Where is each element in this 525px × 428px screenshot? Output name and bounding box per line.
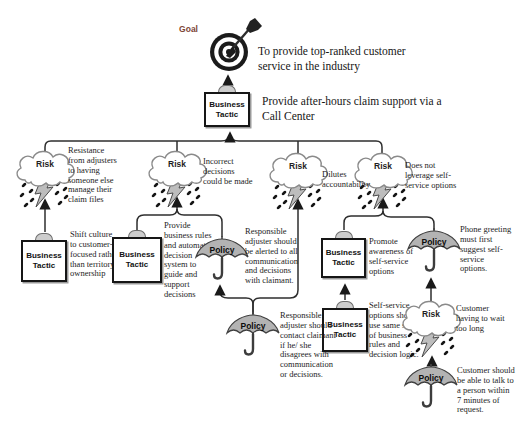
risk-1-description: Resistance from adjusters to having some…	[68, 146, 120, 205]
clipboard-clip-icon	[336, 301, 354, 308]
risk-node-3: Risk	[266, 149, 330, 213]
clipboard-icon: Business Tactic	[204, 92, 250, 127]
umbrella-icon	[406, 228, 462, 274]
target-icon	[205, 18, 265, 74]
risk-5-label: Risk	[399, 309, 463, 319]
risk-4-description: Does not leverage self-service options	[405, 161, 461, 191]
clipboard-clip-icon	[35, 233, 53, 240]
goal-description: To provide top-ranked customer service i…	[258, 44, 438, 73]
root-tactic-node: Business Tactic	[204, 85, 250, 127]
risk-node-2: Risk	[145, 147, 209, 211]
storm-cloud-icon	[145, 147, 209, 211]
storm-cloud-icon	[266, 149, 330, 213]
policy-4-description: Customer should be able to talk to a per…	[457, 366, 515, 415]
risk-3-description: Dilutes accountability	[322, 170, 378, 190]
policy-node-2: Policy	[225, 312, 281, 358]
risk-2-label: Risk	[145, 159, 209, 169]
umbrella-icon	[403, 364, 459, 410]
clipboard-clip-icon	[335, 231, 353, 238]
tactic-node-1: Business Tactic	[21, 233, 67, 282]
tactic-1-label: Business Tactic	[23, 251, 65, 270]
root-tactic-description: Provide after-hours claim support via a …	[262, 94, 447, 123]
policy-node-1: Policy	[194, 236, 250, 282]
storm-cloud-icon	[399, 297, 463, 361]
strategy-risk-diagram: Goal To provide top-ranked customer serv…	[0, 0, 525, 428]
risk-5-description: Customer having to wait too long	[456, 304, 514, 334]
clipboard-clip-icon	[218, 85, 236, 92]
clipboard-icon: Business Tactic	[21, 240, 67, 282]
bracket-risk4-left	[344, 211, 383, 230]
clipboard-clip-icon	[128, 230, 146, 237]
policy-3-label: Policy	[406, 237, 462, 247]
goal-label: Goal	[166, 24, 198, 34]
policy-node-4: Policy	[403, 364, 459, 410]
risk-3-label: Risk	[266, 161, 330, 171]
policy-2-label: Policy	[225, 321, 281, 331]
policy-node-3: Policy	[406, 228, 462, 274]
root-tactic-label: Business Tactic	[206, 100, 248, 119]
policy-1-description: Responsible adjuster should be alerted t…	[245, 227, 303, 286]
arrow-policy2-to-policy1	[220, 286, 253, 314]
goal-node	[205, 18, 265, 74]
tactic-node-2: Business Tactic	[112, 230, 162, 283]
policy-2-description: Responsible adjuster should contact clai…	[280, 311, 342, 380]
umbrella-icon	[194, 236, 250, 282]
tactic-2-label: Business Tactic	[114, 250, 160, 269]
umbrella-icon	[225, 312, 281, 358]
clipboard-icon: Business Tactic	[321, 238, 366, 278]
tactic-node-3: Business Tactic	[321, 231, 366, 278]
clipboard-icon: Business Tactic	[112, 237, 162, 283]
policy-4-label: Policy	[403, 373, 459, 383]
risk-node-5: Risk	[399, 297, 463, 361]
tactic-3-label: Business Tactic	[323, 248, 364, 267]
policy-1-label: Policy	[194, 245, 250, 255]
risk-2-description: Incorrect decisions could be made	[203, 157, 253, 187]
policy-3-description: Phone greeting must first suggest self-s…	[460, 225, 512, 274]
